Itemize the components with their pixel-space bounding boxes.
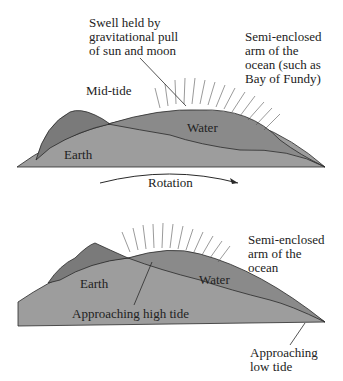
rotation-label: Rotation	[148, 176, 193, 190]
swell-label: Swell held by gravitational pull of sun …	[89, 16, 178, 58]
arm-label-bottom: Semi-enclosed arm of the ocean	[248, 233, 325, 275]
swell-pointer	[140, 58, 186, 106]
earth-label-top: Earth	[64, 148, 92, 162]
mid-tide-label: Mid-tide	[86, 84, 132, 98]
rotation-arrowhead-icon	[230, 178, 238, 184]
arm-label-top: Semi-enclosed arm of the ocean (such as …	[245, 30, 322, 86]
earth-label-bottom: Earth	[80, 277, 108, 291]
low-tide-label: Approaching low tide	[250, 346, 318, 374]
low-tide-pointer	[290, 323, 305, 345]
water-label-top: Water	[187, 121, 218, 135]
water-label-bottom: Water	[199, 273, 230, 287]
high-tide-label: Approaching high tide	[72, 307, 189, 321]
